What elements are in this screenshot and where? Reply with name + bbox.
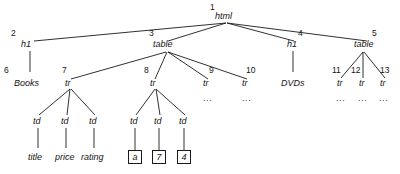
- ellipsis-e1: ...: [203, 94, 212, 103]
- tree-edge: [168, 52, 247, 79]
- node-label-td5: td: [154, 117, 162, 126]
- node-label-td6: td: [179, 117, 187, 126]
- node-index-3: 3: [149, 29, 154, 38]
- node-label-n13: tr: [380, 79, 386, 88]
- node-index-2: 2: [11, 29, 16, 38]
- node-label-n4: h1: [287, 40, 297, 49]
- node-label-n2: h1: [21, 40, 31, 49]
- node-label-n9: tr: [203, 79, 209, 88]
- tree-edge: [168, 52, 208, 79]
- tree-edge: [71, 52, 166, 79]
- tree-edge: [71, 89, 95, 115]
- node-label-lf2: price: [55, 153, 75, 162]
- node-label-n12: tr: [359, 79, 365, 88]
- node-label-td1: td: [33, 117, 41, 126]
- node-index-5: 5: [372, 29, 377, 38]
- node-label-td4: td: [130, 117, 138, 126]
- node-index-7: 7: [62, 66, 67, 75]
- ellipsis-e5: ...: [379, 94, 388, 103]
- node-index-8: 8: [144, 66, 149, 75]
- dom-tree-diagram: 1html2h13table4h15table6Books7tr8tr9tr10…: [0, 0, 400, 174]
- boxed-leaf-b3: 4: [177, 150, 191, 164]
- node-label-n6: Books: [14, 79, 39, 88]
- tree-edge: [156, 89, 185, 115]
- tree-edge: [156, 89, 160, 115]
- tree-edge: [136, 89, 155, 115]
- ellipsis-e3: ...: [336, 94, 345, 103]
- node-index-13: 13: [380, 66, 389, 75]
- tree-edge: [39, 89, 70, 115]
- node-label-td3: td: [89, 117, 97, 126]
- node-label-lf3: rating: [81, 153, 104, 162]
- node-label-nDVDs: DVDs: [281, 79, 305, 88]
- ellipsis-e2: ...: [242, 94, 251, 103]
- ellipsis-e4: ...: [358, 94, 367, 103]
- node-label-n3: table: [153, 40, 173, 49]
- node-label-n11: tr: [337, 79, 343, 88]
- node-index-11: 11: [332, 66, 341, 75]
- node-label-td2: td: [61, 117, 69, 126]
- node-label-n10: tr: [242, 79, 248, 88]
- node-index-9: 9: [209, 66, 214, 75]
- node-label-n1: html: [215, 12, 232, 21]
- tree-edge: [67, 89, 70, 115]
- node-label-lf1: title: [28, 153, 42, 162]
- tree-edge: [227, 23, 294, 41]
- tree-edge: [227, 23, 367, 41]
- node-label-n8: tr: [150, 79, 156, 88]
- node-label-n7: tr: [65, 79, 71, 88]
- node-index-4: 4: [298, 29, 303, 38]
- boxed-leaf-b2: 7: [152, 150, 166, 164]
- boxed-leaf-b1: a: [128, 150, 142, 164]
- node-index-6: 6: [4, 66, 9, 75]
- node-index-10: 10: [246, 66, 255, 75]
- tree-edge: [155, 52, 167, 79]
- node-label-n5: table: [354, 40, 374, 49]
- node-index-12: 12: [351, 66, 360, 75]
